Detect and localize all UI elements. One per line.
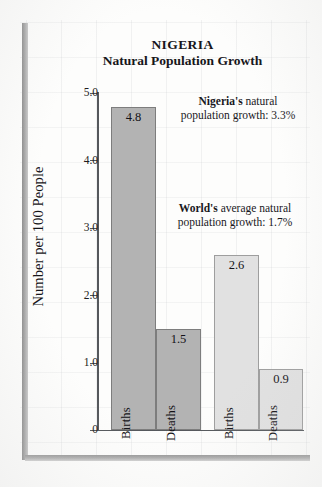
y-axis-title: Number per 100 People (30, 137, 47, 337)
chart-figure: NIGERIA Natural Population Growth 5.0 4.… (0, 0, 322, 487)
bar-world-deaths: 0.9 Deaths (259, 369, 303, 430)
bar-value-label: 0.9 (260, 373, 302, 386)
bar-world-births: 2.6 Births (214, 255, 259, 430)
y-tick-2: 2.0 (52, 290, 98, 302)
annotation-nigeria-line2: population growth: 3.3% (168, 109, 308, 123)
bar-value-label: 1.5 (157, 333, 200, 346)
y-tick-3: 3.0 (52, 222, 98, 234)
y-tick-0: 0 (52, 424, 98, 436)
annotation-nigeria: Nigeria's natural population growth: 3.3… (168, 95, 308, 122)
bar-category-label: Deaths (164, 405, 179, 441)
annotation-world: World's average natural population growt… (160, 202, 310, 229)
y-tick-1: 1.0 (52, 357, 98, 369)
annotation-nigeria-line1: Nigeria's natural (168, 95, 308, 109)
bar-nigeria-births: 4.8 Births (111, 107, 156, 431)
bar-category-label: Deaths (266, 405, 281, 441)
bar-value-label: 4.8 (112, 111, 155, 124)
bar-value-label: 2.6 (215, 259, 258, 272)
bar-category-label: Births (119, 407, 134, 439)
annotation-nigeria-rest: natural (243, 95, 278, 107)
plot-area: 5.0 4.0 3.0 2.0 1.0 0 Number per 100 Peo… (0, 0, 322, 487)
annotation-world-lead: World's (179, 202, 218, 214)
y-tick-5: 5.0 (52, 87, 98, 99)
y-axis-line (97, 92, 99, 431)
bar-category-label: Births (222, 407, 237, 439)
annotation-nigeria-lead: Nigeria's (199, 95, 243, 107)
annotation-world-line1: World's average natural (160, 202, 310, 216)
y-tick-4: 4.0 (52, 155, 98, 167)
annotation-world-line2: population growth: 1.7% (160, 216, 310, 230)
bar-nigeria-deaths: 1.5 Deaths (156, 329, 201, 430)
annotation-world-rest: average natural (218, 202, 291, 214)
